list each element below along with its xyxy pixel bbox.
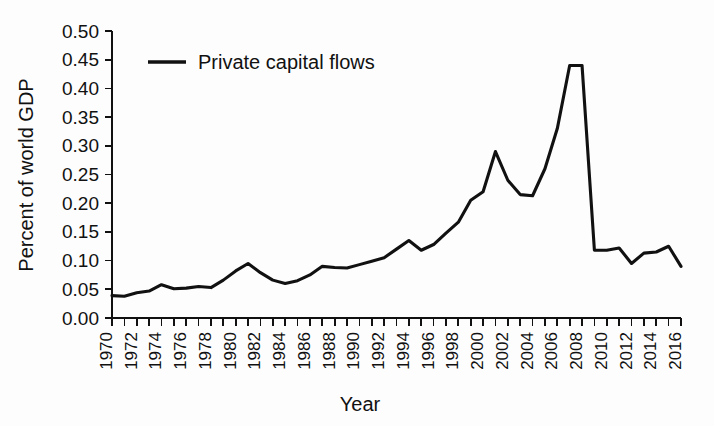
- y-tick-label: 0.30: [62, 135, 99, 156]
- x-tick-label: 1990: [344, 332, 363, 370]
- series-line-private-capital-flows: [112, 65, 681, 296]
- y-tick-label: 0.15: [62, 221, 99, 242]
- x-axis-tick-marks: [112, 318, 681, 326]
- x-tick-label: 1982: [245, 332, 264, 370]
- x-tick-label: 1998: [443, 332, 462, 370]
- x-tick-label: 1970: [97, 332, 116, 370]
- x-tick-label: 1986: [295, 332, 314, 370]
- legend: Private capital flows: [148, 51, 375, 73]
- y-axis-tick-labels: 0.000.050.100.150.200.250.300.350.400.45…: [62, 21, 99, 329]
- x-tick-label: 1974: [146, 332, 165, 370]
- x-tick-label: 1980: [221, 332, 240, 370]
- x-tick-label: 2014: [641, 332, 660, 370]
- y-tick-label: 0.35: [62, 107, 99, 128]
- y-tick-label: 0.00: [62, 308, 99, 329]
- x-tick-label: 1972: [122, 332, 141, 370]
- y-tick-label: 0.25: [62, 164, 99, 185]
- x-axis-title: Year: [340, 393, 381, 415]
- x-tick-label: 2004: [518, 332, 537, 370]
- x-tick-label: 2006: [542, 332, 561, 370]
- y-tick-label: 0.20: [62, 193, 99, 214]
- x-axis-tick-labels: 1970197219741976197819801982198419861988…: [97, 332, 685, 370]
- x-tick-label: 1978: [196, 332, 215, 370]
- x-tick-label: 1996: [419, 332, 438, 370]
- x-tick-label: 2002: [493, 332, 512, 370]
- x-tick-label: 1994: [394, 332, 413, 370]
- x-tick-label: 2000: [468, 332, 487, 370]
- y-tick-label: 0.50: [62, 21, 99, 42]
- x-tick-label: 2008: [567, 332, 586, 370]
- y-tick-label: 0.10: [62, 250, 99, 271]
- x-tick-label: 1992: [369, 332, 388, 370]
- y-tick-label: 0.45: [62, 49, 99, 70]
- x-tick-label: 2012: [617, 332, 636, 370]
- y-tick-label: 0.40: [62, 78, 99, 99]
- x-tick-label: 2010: [592, 332, 611, 370]
- x-tick-label: 1976: [171, 332, 190, 370]
- y-axis-title: Percent of world GDP: [15, 78, 37, 271]
- chart-figure: 0.000.050.100.150.200.250.300.350.400.45…: [0, 0, 714, 426]
- x-tick-label: 2016: [666, 332, 685, 370]
- x-tick-label: 1984: [270, 332, 289, 370]
- y-tick-label: 0.05: [62, 279, 99, 300]
- legend-label-private-capital-flows: Private capital flows: [198, 51, 375, 73]
- x-tick-label: 1988: [320, 332, 339, 370]
- private-capital-flows-line-chart: 0.000.050.100.150.200.250.300.350.400.45…: [0, 0, 714, 426]
